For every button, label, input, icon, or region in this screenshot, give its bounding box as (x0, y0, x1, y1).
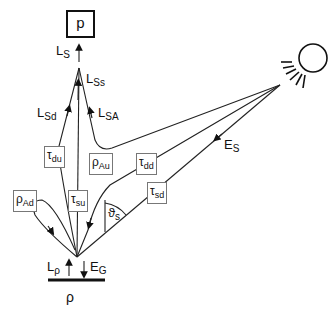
label-l-ss: LSs (86, 72, 105, 88)
box-tau-sd: τsd (147, 182, 167, 204)
label-theta-s: ϑs (108, 206, 120, 222)
box-tau-su: τsu (68, 190, 88, 212)
label-l-s: LS (56, 44, 70, 60)
label-e-s: ES (224, 138, 239, 154)
label-l-rho: Lρ (47, 260, 60, 276)
box-tau-du: τdu (44, 146, 65, 168)
box-rho-ad: ρAd (13, 190, 37, 212)
sensor-label: p (76, 14, 84, 31)
sun-icon (281, 44, 327, 88)
surface-reflectance-symbol: ρ (66, 290, 74, 304)
sensor-box: p (66, 10, 95, 38)
label-l-sa: LSA (98, 106, 119, 122)
box-tau-dd: τdd (136, 153, 157, 175)
label-e-g: EG (90, 260, 106, 276)
label-l-sd: LSd (37, 106, 56, 122)
box-rho-au: ρAu (89, 153, 113, 175)
